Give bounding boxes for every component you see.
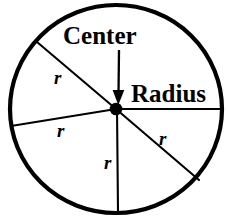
radius-label: Radius <box>131 81 206 106</box>
radius-variable-label-bottom: r <box>104 153 111 172</box>
center-label: Center <box>63 23 137 48</box>
radius-variable-label-lower-left: r <box>57 121 64 140</box>
radius-line-upper-left <box>37 42 116 109</box>
center-arrow-stem <box>119 50 120 94</box>
center-point-dot <box>110 103 123 116</box>
radius-variable-label-lower-right: r <box>159 129 166 148</box>
radius-line-lower-right <box>116 109 199 180</box>
circle-diagram: Center Radius r r r r <box>0 0 228 221</box>
center-arrow-head <box>113 90 125 105</box>
radius-variable-label-upper-left: r <box>54 68 61 87</box>
radius-line-vertical-down <box>117 109 118 212</box>
